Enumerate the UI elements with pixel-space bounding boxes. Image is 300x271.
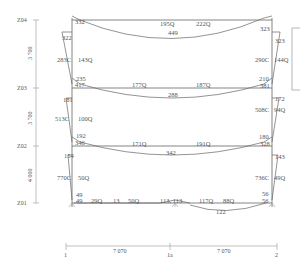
svg-text:736C: 736C [255, 174, 269, 181]
svg-text:328: 328 [260, 140, 270, 147]
svg-text:181: 181 [63, 96, 73, 103]
svg-text:195Q: 195Q [160, 20, 175, 27]
svg-text:449: 449 [168, 29, 178, 36]
story-height-2: 3 700 [27, 112, 33, 126]
elevation-dimension: Z04 Z03 Z02 Z01 3 700 3 700 4 000 [17, 17, 39, 206]
svg-text:180: 180 [259, 133, 269, 140]
beam-z02-labels: 192 346 171Q 191Q 342 180 328 [75, 132, 270, 156]
svg-text:88Q: 88Q [223, 197, 235, 204]
svg-text:113, 113: 113, 113 [160, 197, 182, 204]
svg-text:171Q: 171Q [132, 140, 147, 147]
axis-label-1a: 1a [167, 252, 173, 258]
svg-text:342: 342 [166, 149, 176, 156]
svg-text:50Q: 50Q [78, 174, 90, 181]
svg-text:346: 346 [75, 139, 86, 146]
svg-text:56: 56 [262, 197, 269, 204]
svg-text:13: 13 [113, 197, 120, 204]
svg-text:94Q: 94Q [274, 106, 286, 113]
svg-text:322: 322 [62, 34, 72, 41]
axis-label-1: 1 [64, 252, 67, 258]
svg-text:143Q: 143Q [78, 56, 93, 63]
svg-text:191Q: 191Q [196, 140, 211, 147]
svg-text:288: 288 [168, 91, 178, 98]
svg-text:187Q: 187Q [196, 81, 211, 88]
svg-text:154: 154 [64, 152, 75, 159]
frame-members [69, 18, 275, 207]
frame-moment-diagram: Z04 Z03 Z02 Z01 3 700 3 700 4 000 [0, 0, 300, 271]
svg-text:323: 323 [275, 37, 285, 44]
svg-text:508C: 508C [255, 106, 269, 113]
svg-text:222Q: 222Q [196, 20, 211, 27]
svg-text:770C: 770C [57, 174, 71, 181]
beam-z01-labels: 49 49 29Q 13 50Q 113, 113 117Q 88Q 122 5… [76, 190, 269, 215]
svg-text:49Q: 49Q [274, 174, 286, 181]
story-height-3: 3 700 [27, 47, 33, 61]
svg-text:210: 210 [259, 75, 269, 82]
svg-text:50Q: 50Q [128, 197, 140, 204]
svg-text:323: 323 [260, 25, 270, 32]
svg-text:56: 56 [262, 190, 269, 197]
svg-text:513C: 513C [55, 115, 69, 122]
svg-text:144Q: 144Q [274, 56, 289, 63]
level-label-z03: Z03 [17, 85, 27, 91]
beam-z03-labels: 235 417 177Q 187Q 288 210 381 [75, 75, 270, 98]
legend-box [292, 28, 300, 90]
svg-text:332: 332 [75, 18, 85, 25]
beam-moment-curves [72, 16, 272, 211]
svg-text:117Q: 117Q [199, 197, 214, 204]
svg-text:192: 192 [76, 132, 86, 139]
axis-label-2: 2 [275, 252, 278, 258]
level-label-z01: Z01 [17, 200, 27, 206]
svg-text:143: 143 [275, 153, 285, 160]
column-moment-curves [62, 32, 280, 200]
svg-text:172: 172 [275, 95, 285, 102]
svg-text:177Q: 177Q [132, 81, 147, 88]
left-column-labels: 322 283C 143Q 181 513C 100Q 154 770C 50Q [55, 34, 93, 181]
svg-text:381: 381 [260, 82, 270, 89]
svg-text:283C: 283C [57, 56, 71, 63]
span-length-1: 7 070 [113, 248, 127, 254]
level-label-z02: Z02 [17, 143, 27, 149]
span-dimension: 7 070 7 070 1 1a 2 [64, 243, 278, 258]
svg-text:122: 122 [216, 208, 226, 215]
span-length-2: 7 070 [217, 248, 231, 254]
svg-text:417: 417 [75, 81, 86, 88]
story-height-1: 4 000 [27, 169, 33, 183]
svg-text:100Q: 100Q [78, 115, 93, 122]
level-label-z04: Z04 [17, 17, 27, 23]
svg-text:49: 49 [76, 197, 83, 204]
svg-text:290C: 290C [255, 56, 269, 63]
svg-text:29Q: 29Q [91, 197, 103, 204]
